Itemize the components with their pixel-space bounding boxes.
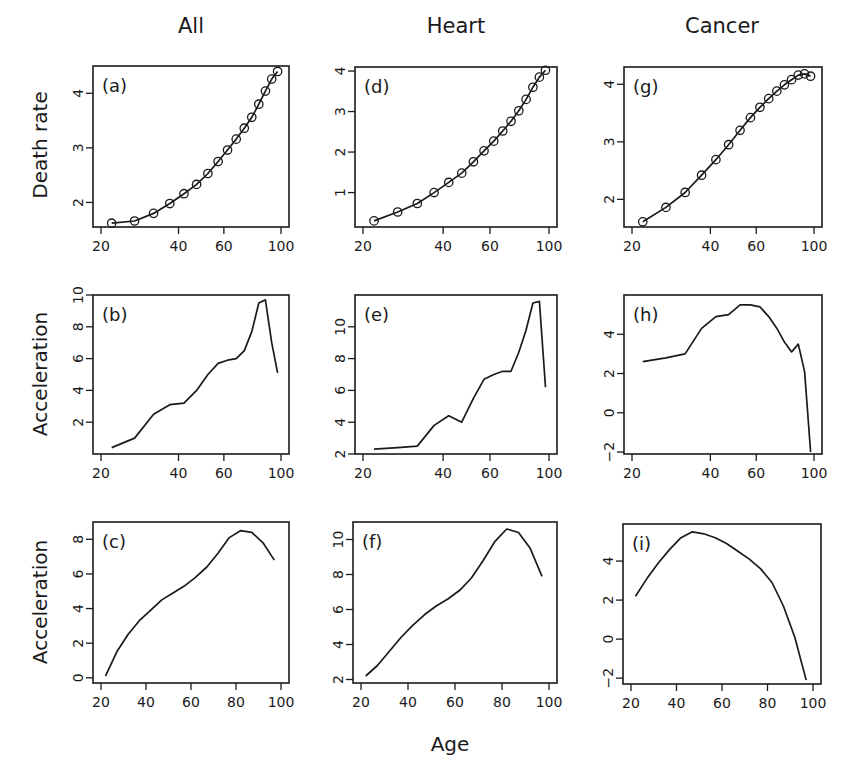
x-tick-label: 20 xyxy=(354,465,372,481)
y-tick-label: 2 xyxy=(332,148,348,157)
panel-label: (i) xyxy=(632,533,651,554)
y-tick-label: −2 xyxy=(601,442,617,463)
x-tick-label: 100 xyxy=(268,465,295,481)
x-tick-label: 60 xyxy=(215,238,233,254)
y-tick-label: 3 xyxy=(332,107,348,116)
x-tick-label: 40 xyxy=(668,695,686,711)
figure: All Heart Cancer Death rate Acceleration… xyxy=(0,0,846,778)
y-tick-label: 0 xyxy=(601,408,617,417)
y-tick-label: 8 xyxy=(70,535,86,544)
x-tick-label: 60 xyxy=(446,694,464,710)
panel-b: 204060100246810(b) xyxy=(70,286,294,481)
x-tick-label: 40 xyxy=(701,465,719,481)
x-tick-label: 100 xyxy=(536,694,563,710)
x-tick-label: 100 xyxy=(800,695,827,711)
y-tick-label: 3 xyxy=(70,143,86,152)
y-tick-label: 4 xyxy=(332,67,348,76)
x-tick-label: 100 xyxy=(536,238,563,254)
panel-label: (g) xyxy=(633,76,658,97)
panel-label: (b) xyxy=(102,304,127,325)
x-tick-label: 20 xyxy=(354,238,372,254)
x-tick-label: 20 xyxy=(623,238,641,254)
x-tick-label: 60 xyxy=(215,465,233,481)
y-tick-label: 6 xyxy=(70,569,86,578)
panel-label: (a) xyxy=(102,75,127,96)
panel-label: (c) xyxy=(102,531,126,552)
y-tick-label: 2 xyxy=(601,195,617,204)
y-tick-label: 0 xyxy=(600,635,616,644)
y-tick-label: 0 xyxy=(70,673,86,682)
x-tick-label: 40 xyxy=(170,238,188,254)
y-tick-label: 10 xyxy=(330,531,346,549)
y-tick-label: 6 xyxy=(330,605,346,614)
y-tick-label: 10 xyxy=(70,286,86,304)
x-tick-label: 20 xyxy=(92,465,110,481)
y-tick-label: 4 xyxy=(332,418,348,427)
x-tick-label: 60 xyxy=(481,238,499,254)
data-line xyxy=(112,300,278,448)
y-tick-label: −2 xyxy=(600,668,616,689)
plot-grid: 204060100234(a)204060100246810(b)2040608… xyxy=(0,0,846,778)
x-tick-label: 20 xyxy=(92,238,110,254)
x-tick-label: 40 xyxy=(434,238,452,254)
y-tick-label: 2 xyxy=(330,675,346,684)
panel-h: 204060100−2024(h) xyxy=(601,295,827,481)
y-tick-label: 2 xyxy=(70,639,86,648)
y-tick-label: 6 xyxy=(332,386,348,395)
y-tick-label: 2 xyxy=(70,198,86,207)
data-line xyxy=(106,531,275,676)
data-marker xyxy=(639,218,647,226)
x-tick-label: 20 xyxy=(352,694,370,710)
panel-label: (h) xyxy=(633,304,658,325)
y-tick-label: 4 xyxy=(70,604,86,613)
x-tick-label: 100 xyxy=(268,238,295,254)
panel-c: 2040608010002468(c) xyxy=(70,522,294,710)
panel-label: (d) xyxy=(364,76,389,97)
y-tick-label: 4 xyxy=(600,557,616,566)
x-tick-label: 100 xyxy=(801,238,828,254)
y-tick-label: 2 xyxy=(600,596,616,605)
data-line xyxy=(374,301,546,449)
panel-f: 20406080100246810(f) xyxy=(330,522,562,710)
x-tick-label: 100 xyxy=(801,465,828,481)
y-tick-label: 4 xyxy=(70,386,86,395)
panel-label: (f) xyxy=(362,531,382,552)
plot-frame xyxy=(623,524,821,684)
data-marker xyxy=(273,67,281,75)
y-tick-label: 4 xyxy=(330,640,346,649)
x-tick-label: 20 xyxy=(622,695,640,711)
y-tick-label: 3 xyxy=(601,137,617,146)
panel-a: 204060100234(a) xyxy=(70,66,294,254)
x-tick-label: 60 xyxy=(481,465,499,481)
data-line xyxy=(112,72,278,224)
x-tick-label: 20 xyxy=(92,694,110,710)
data-line xyxy=(374,70,546,221)
x-tick-label: 100 xyxy=(536,465,563,481)
x-tick-label: 60 xyxy=(747,465,765,481)
x-tick-label: 60 xyxy=(182,694,200,710)
x-tick-label: 40 xyxy=(170,465,188,481)
y-tick-label: 4 xyxy=(601,330,617,339)
x-tick-label: 80 xyxy=(227,694,245,710)
x-tick-label: 80 xyxy=(759,695,777,711)
y-tick-label: 2 xyxy=(70,418,86,427)
panel-d: 2040601001234(d) xyxy=(332,66,562,254)
y-tick-label: 6 xyxy=(70,354,86,363)
y-tick-label: 8 xyxy=(330,570,346,579)
panel-label: (e) xyxy=(364,304,389,325)
x-tick-label: 60 xyxy=(747,238,765,254)
x-tick-label: 40 xyxy=(399,694,417,710)
x-tick-label: 40 xyxy=(434,465,452,481)
y-tick-label: 10 xyxy=(332,318,348,336)
data-line xyxy=(366,529,542,676)
y-tick-label: 8 xyxy=(332,354,348,363)
panel-g: 204060100234(g) xyxy=(601,67,827,254)
panel-e: 204060100246810(e) xyxy=(332,295,562,481)
x-tick-label: 80 xyxy=(493,694,511,710)
panel-i: 20406080100−2024(i) xyxy=(600,524,826,711)
x-tick-label: 40 xyxy=(137,694,155,710)
data-line xyxy=(643,305,811,452)
data-line xyxy=(636,532,807,680)
y-tick-label: 2 xyxy=(601,369,617,378)
x-tick-label: 40 xyxy=(701,238,719,254)
